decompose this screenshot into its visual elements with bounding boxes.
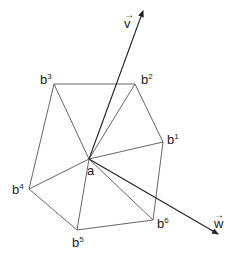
spoke-a-b6 xyxy=(89,159,153,220)
spoke-a-b4 xyxy=(29,159,89,189)
vector-label-w: →w xyxy=(214,217,223,230)
vertex-label-b2: b2 xyxy=(141,73,153,86)
vertex-label-b5: b5 xyxy=(72,236,84,249)
vector-label-v: →v xyxy=(124,17,131,30)
vertex-label-b3: b3 xyxy=(40,73,52,86)
vector-arrow-icon: → xyxy=(124,10,134,20)
polygon-vector-diagram: a b1 b2 b3 b4 b5 b6 →v →w xyxy=(0,0,240,256)
spoke-a-b1 xyxy=(89,142,163,159)
vertex-label-b1: b1 xyxy=(167,133,179,146)
vector-w xyxy=(89,159,218,234)
diagram-svg xyxy=(0,0,240,256)
spoke-a-b3 xyxy=(54,84,89,159)
center-label-a: a xyxy=(87,164,94,177)
vector-arrow-icon: → xyxy=(214,210,224,220)
vertex-label-b4: b4 xyxy=(12,183,24,196)
vertex-label-b6: b6 xyxy=(157,217,169,230)
